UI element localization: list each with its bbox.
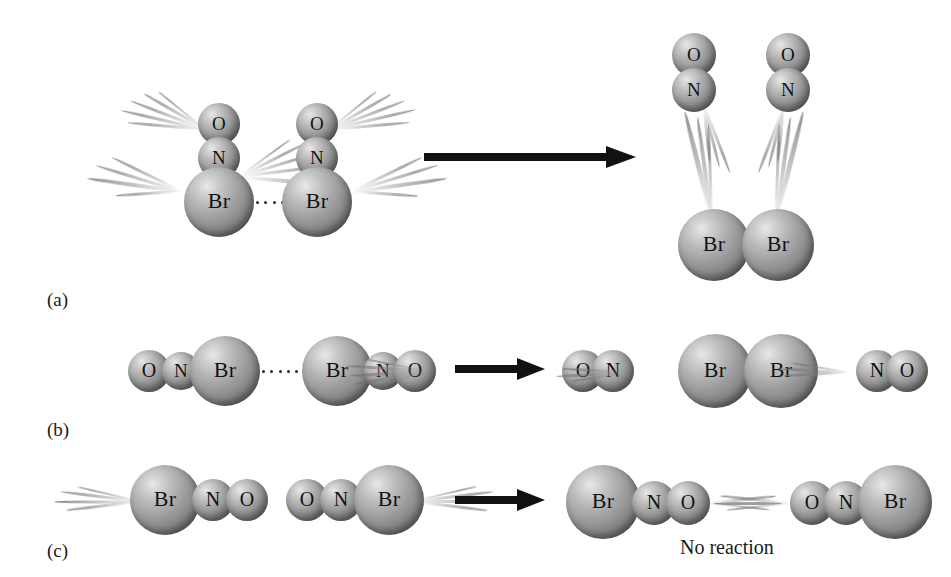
atom-label: O [142, 360, 157, 380]
atom-label: N [310, 148, 324, 167]
atom-nitrogen: N [672, 68, 716, 112]
atom-bromine: Br [744, 334, 818, 408]
atom-oxygen: O [394, 350, 436, 392]
atom-label: O [900, 360, 915, 380]
atom-label: Br [378, 488, 400, 510]
reaction-arrow-c [455, 489, 547, 511]
no-reaction-note: No reaction [680, 536, 774, 559]
atom-label: O [681, 492, 696, 512]
atom-label: N [870, 360, 885, 380]
atom-label: Br [208, 190, 230, 212]
atom-label: Br [214, 359, 236, 381]
panel-label-c: (c) [47, 540, 68, 562]
atom-label: N [212, 148, 226, 167]
atom-label: Br [306, 190, 328, 212]
motion-streaks-a-right-2 [352, 190, 353, 191]
motion-streaks-b-prod-no-right [850, 371, 851, 372]
motion-streaks-a-left-3 [182, 190, 183, 191]
reaction-arrow-b [455, 358, 547, 380]
atom-label: Br [592, 490, 614, 512]
atom-bromine: Br [678, 209, 750, 281]
reaction-arrow-a [424, 146, 636, 168]
atom-label: N [606, 360, 621, 380]
atom-label: N [781, 80, 795, 99]
molecular-collision-figure: O N Br O N Br O [0, 0, 951, 577]
atom-bromine: Br [184, 167, 254, 237]
atom-bromine: Br [130, 465, 200, 535]
atom-label: O [687, 45, 701, 64]
atom-oxygen: O [886, 350, 928, 392]
atom-label: N [376, 361, 390, 380]
atom-label: N [647, 492, 662, 512]
atom-label: O [805, 492, 820, 512]
atom-nitrogen: N [766, 68, 810, 112]
atom-label: O [300, 489, 315, 509]
panel-label-a: (a) [47, 289, 68, 311]
atom-label: N [687, 80, 701, 99]
atom-bromine: Br [678, 334, 752, 408]
atom-label: Br [703, 233, 725, 255]
atom-label: O [212, 114, 226, 133]
atom-label: Br [767, 233, 789, 255]
atom-label: O [240, 489, 255, 509]
atom-label: N [839, 492, 854, 512]
panel-label-b: (b) [47, 419, 69, 441]
atom-label: Br [154, 488, 176, 510]
atom-label: N [206, 489, 221, 509]
atom-bromine: Br [282, 167, 352, 237]
atom-label: N [334, 489, 349, 509]
atom-label: N [174, 361, 188, 380]
atom-bromine: Br [302, 336, 372, 406]
atom-bromine: Br [354, 465, 424, 535]
atom-nitrogen: N [592, 350, 634, 392]
atom-oxygen: O [666, 481, 710, 525]
atom-bromine: Br [566, 465, 640, 539]
atom-label: Br [770, 359, 792, 381]
atom-bromine: Br [858, 465, 932, 539]
atom-label: Br [326, 359, 348, 381]
atom-bromine: Br [742, 209, 814, 281]
atom-label: O [781, 45, 795, 64]
collision-contact-dots [262, 369, 298, 373]
atom-oxygen: O [226, 479, 268, 521]
atom-label: O [310, 114, 324, 133]
atom-bromine: Br [190, 336, 260, 406]
atom-label: Br [884, 490, 906, 512]
atom-label: O [408, 360, 423, 380]
atom-label: O [576, 360, 591, 380]
atom-label: Br [704, 359, 726, 381]
